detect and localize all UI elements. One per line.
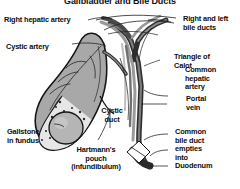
label-gallstone-in-fundus: Gallstone in fundus bbox=[7, 128, 39, 145]
gallstone-highlight bbox=[54, 117, 68, 129]
label-common-hepatic-artery: Common hepatic artery bbox=[185, 66, 216, 92]
label-cystic-duct: Cystic duct bbox=[94, 107, 130, 124]
label-hartmanns-pouch: Hartmann's pouch (infundibulum) bbox=[58, 146, 134, 172]
gallstone bbox=[49, 112, 83, 144]
figure-title: Gallbladder and Bile Ducts bbox=[0, 0, 240, 6]
label-portal-vein: Portal vein bbox=[186, 95, 206, 112]
label-cystic-artery: Cystic artery bbox=[6, 43, 49, 52]
label-common-bile-duct: Common bile duct empties into Duodenum bbox=[175, 128, 212, 171]
label-right-and-left-bile-ducts: Right and left bile ducts bbox=[183, 15, 228, 32]
label-right-hepatic-artery: Right hepatic artery bbox=[4, 16, 70, 25]
